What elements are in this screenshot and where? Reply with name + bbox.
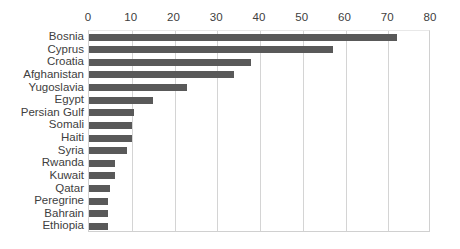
- bar: [89, 160, 115, 167]
- y-axis-category-labels: BosniaCyprusCroatiaAfghanistanYugoslavia…: [0, 30, 84, 232]
- x-tick-label: 70: [381, 10, 394, 24]
- bars-layer: [89, 31, 429, 231]
- x-axis-tick-labels: 01020304050607080: [0, 10, 460, 28]
- bar: [89, 59, 251, 66]
- y-category-label: Cyprus: [0, 43, 84, 56]
- y-category-label: Croatia: [0, 55, 84, 68]
- bar: [89, 122, 132, 129]
- y-category-label: Somali: [0, 118, 84, 131]
- bar: [89, 84, 187, 91]
- bar: [89, 223, 108, 230]
- x-tick-label: 10: [124, 10, 137, 24]
- y-category-label: Kuwait: [0, 169, 84, 182]
- y-category-label: Yugoslavia: [0, 81, 84, 94]
- bar: [89, 34, 397, 41]
- y-category-label: Bahrain: [0, 207, 84, 220]
- bar: [89, 172, 115, 179]
- bar: [89, 147, 127, 154]
- bar: [89, 71, 234, 78]
- x-tick-label: 50: [295, 10, 308, 24]
- y-category-label: Persian Gulf: [0, 106, 84, 119]
- y-category-label: Rwanda: [0, 156, 84, 169]
- x-tick-label: 30: [210, 10, 223, 24]
- bar: [89, 210, 108, 217]
- y-category-label: Syria: [0, 144, 84, 157]
- bar: [89, 97, 153, 104]
- bar: [89, 46, 333, 53]
- y-category-label: Ethiopia: [0, 219, 84, 232]
- y-category-label: Egypt: [0, 93, 84, 106]
- y-category-label: Haiti: [0, 131, 84, 144]
- x-tick-label: 80: [424, 10, 437, 24]
- x-tick-label: 0: [85, 10, 91, 24]
- y-category-label: Qatar: [0, 182, 84, 195]
- bar: [89, 135, 132, 142]
- x-tick-label: 60: [338, 10, 351, 24]
- x-tick-label: 20: [167, 10, 180, 24]
- bar-chart: 01020304050607080 BosniaCyprusCroatiaAfg…: [0, 0, 460, 249]
- x-tick-label: 40: [253, 10, 266, 24]
- bar: [89, 109, 134, 116]
- bar: [89, 185, 110, 192]
- plot-area: [88, 30, 430, 232]
- bar: [89, 198, 108, 205]
- y-category-label: Afghanistan: [0, 68, 84, 81]
- y-category-label: Bosnia: [0, 30, 84, 43]
- y-category-label: Peregrine: [0, 194, 84, 207]
